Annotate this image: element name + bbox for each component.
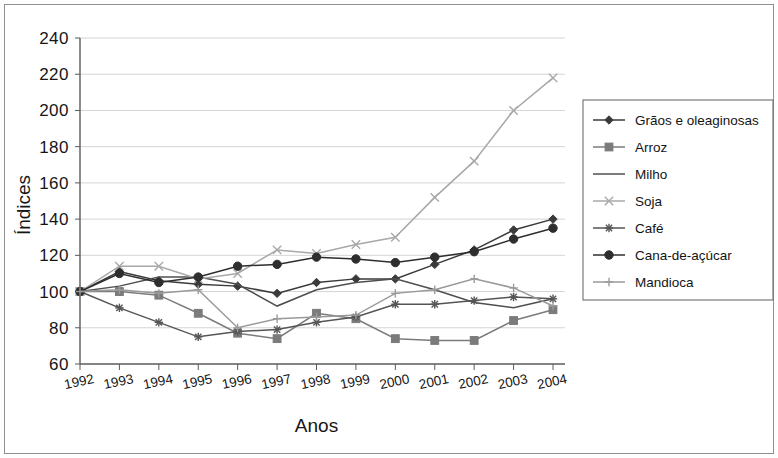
marker-square [194,309,202,317]
x-tick-label-2002: 2002 [457,371,490,392]
y-tick-label-140: 140 [39,210,69,229]
marker-circle [605,251,613,259]
x-tick-label-1998: 1998 [299,371,332,392]
marker-x [470,157,478,165]
x-axis-title: Anos [295,415,338,436]
marker-star [273,325,281,333]
marker-plus [509,284,517,292]
marker-circle [312,253,320,261]
marker-star [470,296,478,304]
chart-legend: Grãos e oleaginosasArrozMilhoSojaCaféCan… [583,100,773,300]
marker-star [431,300,439,308]
marker-circle [115,269,123,277]
marker-square [431,337,439,345]
marker-circle [391,258,399,266]
legend-label: Soja [635,194,663,209]
y-tick-label-220: 220 [39,65,69,84]
marker-x [431,193,439,201]
marker-star [194,333,202,341]
x-tick-label-1994: 1994 [142,371,175,392]
x-tick-label-1996: 1996 [220,371,253,392]
legend-label: Milho [635,167,667,182]
line-chart: 6080100120140160180200220240 19921993199… [0,0,778,458]
marker-star [509,293,517,301]
y-tick-label-180: 180 [39,138,69,157]
marker-star [605,224,613,232]
marker-circle [509,235,517,243]
y-tick-label-240: 240 [39,29,69,48]
y-tick-label-120: 120 [39,246,69,265]
marker-plus [470,275,478,283]
marker-plus [273,315,281,323]
x-tick-label-1995: 1995 [181,371,214,392]
marker-circle [194,273,202,281]
y-axis-tick-labels: 6080100120140160180200220240 [39,29,69,374]
legend-label: Mandioca [635,275,694,290]
x-tick-label-1997: 1997 [260,371,293,392]
marker-plus [391,289,399,297]
marker-star [155,318,163,326]
legend-border [583,100,773,300]
y-tick-label-80: 80 [49,319,69,338]
axes [80,38,565,364]
y-tick-label-200: 200 [39,101,69,120]
x-tick-label-1992: 1992 [63,371,96,392]
marker-circle [431,253,439,261]
x-tick-label-2000: 2000 [378,371,411,392]
marker-star [115,304,123,312]
x-axis-tick-labels: 1992199319941995199619971998199920002001… [63,371,569,392]
marker-star [391,300,399,308]
series-3 [76,74,557,296]
marker-star [549,295,557,303]
chart-svg: 6080100120140160180200220240 19921993199… [0,0,778,458]
marker-diamond [509,226,517,234]
legend-label: Cana-de-açúcar [635,248,732,263]
marker-circle [549,224,557,232]
marker-circle [352,255,360,263]
marker-square [470,337,478,345]
x-tick-label-2004: 2004 [536,371,569,392]
x-tick-label-2003: 2003 [496,371,529,392]
x-tick-label-2001: 2001 [418,371,451,392]
y-tick-label-60: 60 [49,355,69,374]
y-axis-title: Índices [13,175,34,235]
data-series [76,74,557,345]
marker-circle [233,262,241,270]
legend-label: Arroz [635,140,668,155]
chart-page: 6080100120140160180200220240 19921993199… [0,0,778,458]
marker-circle [273,260,281,268]
legend-label: Grãos e oleaginosas [635,113,759,128]
marker-square [605,143,613,151]
marker-square [273,335,281,343]
marker-diamond [273,289,281,297]
x-tick-label-1999: 1999 [339,371,372,392]
marker-plus [431,286,439,294]
x-tick-label-1993: 1993 [102,371,135,392]
marker-diamond [312,278,320,286]
marker-circle [155,278,163,286]
legend-label: Café [635,221,664,236]
marker-square [510,317,518,325]
gridlines [80,38,565,328]
marker-diamond [549,215,557,223]
y-tick-label-160: 160 [39,174,69,193]
marker-circle [470,248,478,256]
y-tick-label-100: 100 [39,283,69,302]
marker-square [391,335,399,343]
marker-x [549,74,557,82]
